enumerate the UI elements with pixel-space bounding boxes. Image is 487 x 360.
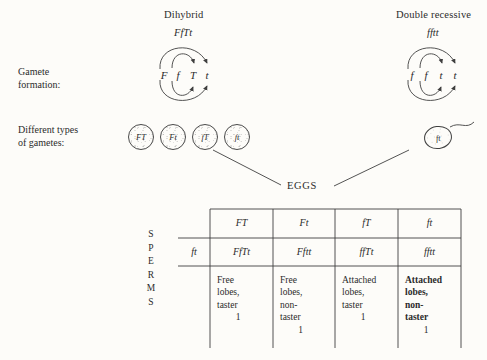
phenotype-0-line-0: Free bbox=[217, 274, 273, 286]
punnett-genotype-0: FfTt bbox=[210, 246, 273, 257]
punnett-phenotype-2: Attached lobes, taster 1 bbox=[342, 274, 398, 324]
punnett-row-header: ft bbox=[178, 246, 210, 257]
phenotype-0-line-1: lobes, bbox=[217, 286, 273, 298]
phenotype-3-line-3: taster bbox=[405, 311, 461, 323]
sperms-vertical-label: S P E R M S bbox=[144, 228, 158, 310]
phenotype-3-line-0: Attached bbox=[405, 274, 461, 286]
sperms-letter-4: M bbox=[144, 282, 158, 296]
punnett-genotype-3: fftt bbox=[398, 246, 461, 257]
punnett-phenotype-3: Attached lobes, non- taster 1 bbox=[405, 274, 461, 336]
punnett-genotype-2: ffTt bbox=[335, 246, 398, 257]
sperms-letter-1: P bbox=[144, 242, 158, 256]
punnett-phenotype-0: Free lobes, taster 1 bbox=[217, 274, 273, 324]
punnett-phenotype-1: Free lobes, non- taster 1 bbox=[280, 274, 335, 336]
phenotype-1-line-0: Free bbox=[280, 274, 335, 286]
punnett-col-header-1: Ft bbox=[273, 217, 335, 228]
phenotype-3-line-1: lobes, bbox=[405, 286, 461, 298]
sperms-letter-2: E bbox=[144, 255, 158, 269]
phenotype-0-line-2: taster bbox=[217, 299, 273, 311]
phenotype-1-line-2: non- bbox=[280, 299, 335, 311]
phenotype-2-count: 1 bbox=[342, 311, 398, 323]
phenotype-2-line-2: taster bbox=[342, 299, 398, 311]
phenotype-1-line-1: lobes, bbox=[280, 286, 335, 298]
punnett-col-header-0: FT bbox=[210, 217, 273, 228]
punnett-col-header-3: ft bbox=[398, 217, 461, 228]
sperms-letter-5: S bbox=[144, 296, 158, 310]
phenotype-0-count: 1 bbox=[217, 311, 273, 323]
punnett-genotype-1: Fftt bbox=[273, 246, 335, 257]
punnett-col-header-2: fT bbox=[335, 217, 398, 228]
phenotype-3-line-2: non- bbox=[405, 299, 461, 311]
sperms-letter-3: R bbox=[144, 269, 158, 283]
phenotype-3-count: 1 bbox=[405, 324, 461, 336]
phenotype-2-line-1: lobes, bbox=[342, 286, 398, 298]
phenotype-1-line-3: taster bbox=[280, 311, 335, 323]
sperms-letter-0: S bbox=[144, 228, 158, 242]
phenotype-2-line-0: Attached bbox=[342, 274, 398, 286]
phenotype-1-count: 1 bbox=[280, 324, 335, 336]
